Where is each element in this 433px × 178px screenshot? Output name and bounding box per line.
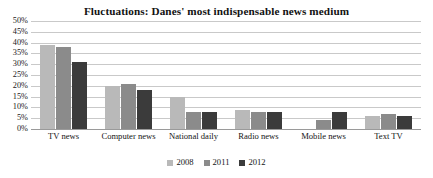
gridline — [31, 129, 421, 130]
bar — [267, 112, 282, 129]
y-tick-label: 20% — [13, 82, 28, 90]
plot-area — [31, 21, 421, 129]
bar — [365, 116, 380, 129]
bar — [72, 62, 87, 129]
x-tick-label: Computer news — [96, 132, 161, 142]
bar — [202, 112, 217, 129]
bar-group — [356, 21, 421, 129]
bar — [235, 110, 250, 129]
y-tick-label: 25% — [13, 71, 28, 79]
bar — [186, 112, 201, 129]
bars-layer — [31, 21, 421, 129]
y-tick-label: 30% — [13, 60, 28, 68]
bar-group — [161, 21, 226, 129]
legend-item[interactable]: 2011 — [204, 158, 230, 167]
x-tick-label: Radio news — [226, 132, 291, 142]
y-tick-label: 35% — [13, 49, 28, 57]
x-axis: TV newsComputer newsNational dailyRadio … — [31, 132, 421, 142]
bar — [105, 86, 120, 129]
bar — [170, 97, 185, 129]
legend-label: 2008 — [176, 158, 193, 167]
bar-group — [31, 21, 96, 129]
bar — [121, 84, 136, 129]
bar — [397, 116, 412, 129]
bar-group — [96, 21, 161, 129]
plot-region: 0%5%10%15%20%25%30%35%40%45%50% TV newsC… — [0, 21, 433, 129]
legend: 200820112012 — [0, 158, 433, 167]
x-tick-label: TV news — [31, 132, 96, 142]
bar-group — [291, 21, 356, 129]
legend-item[interactable]: 2008 — [167, 158, 193, 167]
legend-label: 2011 — [213, 158, 230, 167]
chart-title: Fluctuations: Danes' most indispensable … — [0, 0, 433, 18]
legend-swatch-icon — [167, 160, 173, 166]
bar — [251, 112, 266, 129]
y-axis: 0%5%10%15%20%25%30%35%40%45%50% — [0, 21, 30, 129]
y-tick-label: 0% — [17, 125, 28, 133]
bar — [137, 90, 152, 129]
bar — [381, 114, 396, 129]
y-tick-label: 15% — [13, 93, 28, 101]
bar — [332, 112, 347, 129]
bar-group — [226, 21, 291, 129]
bar — [316, 120, 331, 129]
y-tick-label: 45% — [13, 28, 28, 36]
y-tick-label: 10% — [13, 103, 28, 111]
legend-swatch-icon — [204, 160, 210, 166]
bar — [40, 45, 55, 129]
y-tick-label: 5% — [17, 114, 28, 122]
legend-item[interactable]: 2012 — [239, 158, 265, 167]
x-tick-label: Mobile news — [291, 132, 356, 142]
x-tick-label: Text TV — [356, 132, 421, 142]
y-tick-label: 40% — [13, 39, 28, 47]
legend-label: 2012 — [248, 158, 265, 167]
bar — [56, 47, 71, 129]
bar-chart: Fluctuations: Danes' most indispensable … — [0, 0, 433, 178]
x-tick-label: National daily — [161, 132, 226, 142]
y-tick-label: 50% — [13, 17, 28, 25]
legend-swatch-icon — [239, 160, 245, 166]
